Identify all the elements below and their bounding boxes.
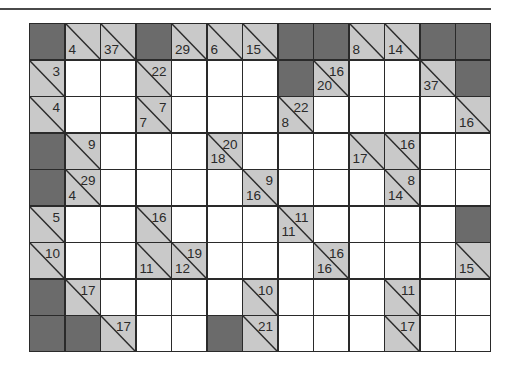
block-cell (421, 24, 455, 59)
entry-cell[interactable] (172, 61, 206, 96)
entry-cell[interactable] (421, 97, 455, 132)
entry-cell[interactable] (456, 170, 490, 205)
entry-cell[interactable] (172, 134, 206, 169)
entry-cell[interactable] (243, 134, 277, 169)
across-clue-sum: 22 (151, 65, 166, 79)
down-clue-sum: 8 (353, 43, 361, 57)
entry-cell[interactable] (421, 243, 455, 278)
entry-cell[interactable] (172, 316, 206, 351)
entry-cell[interactable] (208, 207, 242, 242)
down-clue-sum: 37 (104, 43, 119, 57)
entry-cell[interactable] (66, 97, 100, 132)
entry-cell[interactable] (243, 61, 277, 96)
down-clue-sum: 29 (175, 43, 190, 57)
clue-cell: 2018 (208, 134, 242, 169)
entry-cell[interactable] (101, 280, 135, 315)
entry-cell[interactable] (208, 97, 242, 132)
clue-cell: 14 (385, 24, 419, 59)
entry-cell[interactable] (314, 207, 348, 242)
entry-cell[interactable] (314, 280, 348, 315)
entry-cell[interactable] (421, 207, 455, 242)
clue-cell: 15 (243, 24, 277, 59)
entry-cell[interactable] (243, 207, 277, 242)
clue-cell: 16 (385, 134, 419, 169)
entry-cell[interactable] (314, 170, 348, 205)
clue-cell: 77 (137, 97, 171, 132)
entry-cell[interactable] (101, 207, 135, 242)
entry-cell[interactable] (66, 207, 100, 242)
clue-cell: 5 (30, 207, 64, 242)
entry-cell[interactable] (350, 243, 384, 278)
entry-cell[interactable] (279, 243, 313, 278)
entry-cell[interactable] (172, 97, 206, 132)
entry-cell[interactable] (172, 207, 206, 242)
block-cell (314, 24, 348, 59)
entry-cell[interactable] (137, 280, 171, 315)
across-clue-sum: 9 (265, 174, 273, 188)
entry-cell[interactable] (279, 280, 313, 315)
clue-cell: 9 (66, 134, 100, 169)
entry-cell[interactable] (314, 316, 348, 351)
entry-cell[interactable] (208, 243, 242, 278)
entry-cell[interactable] (208, 61, 242, 96)
entry-cell[interactable] (456, 280, 490, 315)
entry-cell[interactable] (421, 316, 455, 351)
entry-cell[interactable] (66, 61, 100, 96)
entry-cell[interactable] (101, 243, 135, 278)
clue-cell: 1111 (279, 207, 313, 242)
entry-cell[interactable] (101, 61, 135, 96)
entry-cell[interactable] (243, 97, 277, 132)
across-clue-sum: 10 (45, 247, 60, 261)
entry-cell[interactable] (456, 134, 490, 169)
entry-cell[interactable] (456, 316, 490, 351)
entry-cell[interactable] (101, 170, 135, 205)
entry-cell[interactable] (350, 170, 384, 205)
clue-cell: 21 (243, 316, 277, 351)
entry-cell[interactable] (279, 316, 313, 351)
entry-cell[interactable] (421, 280, 455, 315)
entry-cell[interactable] (101, 134, 135, 169)
entry-cell[interactable] (385, 97, 419, 132)
block-cell (137, 24, 171, 59)
clue-cell: 29 (172, 24, 206, 59)
clue-cell: 10 (243, 280, 277, 315)
down-clue-sum: 6 (211, 43, 219, 57)
entry-cell[interactable] (350, 207, 384, 242)
across-clue-sum: 5 (52, 211, 60, 225)
across-clue-sum: 7 (159, 101, 167, 115)
entry-cell[interactable] (208, 170, 242, 205)
entry-cell[interactable] (279, 170, 313, 205)
entry-cell[interactable] (385, 243, 419, 278)
across-clue-sum: 8 (407, 174, 415, 188)
across-clue-sum: 16 (329, 65, 344, 79)
down-clue-sum: 17 (353, 152, 368, 166)
entry-cell[interactable] (137, 134, 171, 169)
down-clue-sum: 8 (282, 116, 290, 130)
across-clue-sum: 4 (52, 101, 60, 115)
entry-cell[interactable] (66, 243, 100, 278)
entry-cell[interactable] (137, 170, 171, 205)
down-clue-sum: 14 (388, 189, 403, 203)
entry-cell[interactable] (350, 280, 384, 315)
entry-cell[interactable] (172, 170, 206, 205)
down-clue-sum: 20 (317, 79, 332, 93)
entry-cell[interactable] (208, 280, 242, 315)
clue-cell: 22 (137, 61, 171, 96)
entry-cell[interactable] (243, 243, 277, 278)
entry-cell[interactable] (421, 134, 455, 169)
entry-cell[interactable] (350, 97, 384, 132)
entry-cell[interactable] (314, 97, 348, 132)
entry-cell[interactable] (421, 170, 455, 205)
entry-cell[interactable] (385, 207, 419, 242)
entry-cell[interactable] (385, 61, 419, 96)
entry-cell[interactable] (350, 316, 384, 351)
entry-cell[interactable] (101, 97, 135, 132)
entry-cell[interactable] (350, 61, 384, 96)
clue-cell: 37 (101, 24, 135, 59)
down-clue-sum: 18 (211, 152, 226, 166)
entry-cell[interactable] (314, 134, 348, 169)
entry-cell[interactable] (172, 280, 206, 315)
entry-cell[interactable] (279, 134, 313, 169)
clue-cell: 1912 (172, 243, 206, 278)
entry-cell[interactable] (137, 316, 171, 351)
